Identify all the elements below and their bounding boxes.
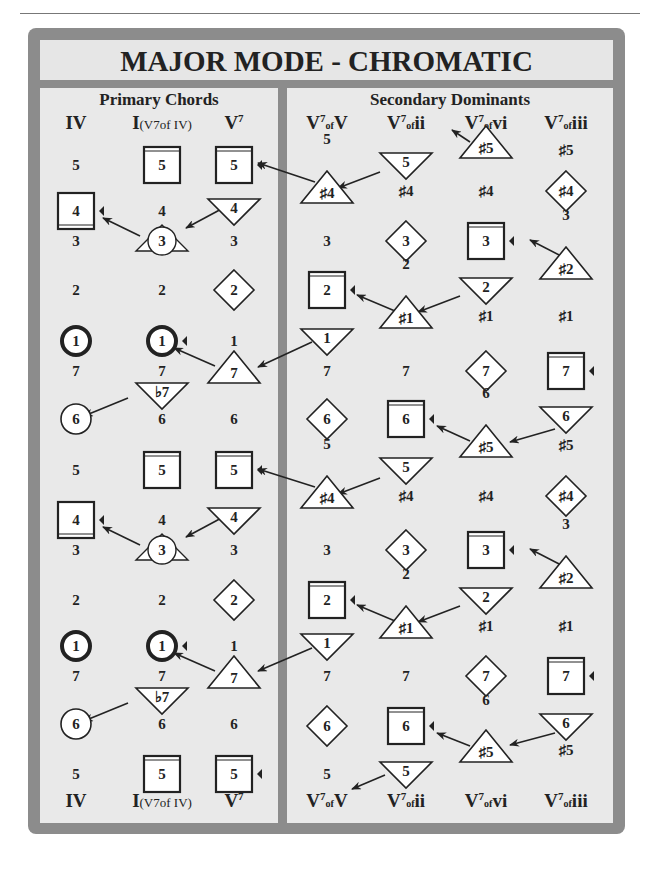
note-text: 2 [402,256,410,272]
note-square-top: 5 [216,147,262,183]
scale-degree-label: 2 [72,282,80,298]
note-circle: 6 [61,404,91,434]
note-tri-down: ♭7 [136,383,188,409]
voice-leading-arrow [258,163,315,182]
scale-degree-label: 7 [323,668,331,684]
scale-degree-label: 5 [323,436,331,452]
note-text: 7 [158,668,166,684]
note-square-top: 7 [548,353,594,389]
note-diamond: 3 [386,221,426,261]
note-text: 5 [72,462,80,478]
note-tri-down: 2 [460,278,512,304]
note-text: 7 [323,363,331,379]
note-text: ♯4 [399,488,415,504]
voice-leading-arrow [452,130,470,142]
scale-degree-label: 2 [230,282,238,298]
note-tri-down: ♭7 [136,688,188,714]
note-square-bottom: 4 [58,502,104,538]
scale-degree-label: 5 [72,462,80,478]
scale-degree-label: 4 [72,512,80,528]
scale-degree-label: ♭7 [155,384,170,400]
voice-leading-arrow [258,648,312,671]
scale-degree-label: 2 [482,589,490,605]
scale-degree-label: 7 [230,670,238,686]
note-text: ♯4 [479,488,495,504]
note-text: ♯5 [559,437,574,453]
voice-leading-arrow [103,218,140,236]
voice-leading-arrow [174,348,215,366]
voice-leading-arrow [437,426,470,441]
scale-degree-label: 3 [158,233,166,249]
scale-degree-label: 5 [402,154,410,170]
scale-degree-label: 1 [323,330,331,346]
scale-degree-label: 5 [158,766,166,782]
note-text: 6 [230,411,238,427]
scale-degree-label: ♯5 [559,142,574,158]
note-text: 5 [323,766,331,782]
scale-degree-label: ♯5 [559,742,574,758]
note-circle-tri: 3 [136,534,188,564]
note-square-bottom: 4 [58,193,104,229]
voice-leading-arrow [418,296,460,312]
note-text: ♯5 [559,742,574,758]
note-text: 7 [72,668,80,684]
scale-degree-label: 6 [323,411,331,427]
scale-degree-label: ♯1 [399,310,414,326]
note-tri-up: 7 [208,656,260,688]
scale-degree-label: 6 [562,408,570,424]
scale-degree-label: 5 [230,766,238,782]
note-text: 7 [323,668,331,684]
note-diamond: 6 [307,399,347,439]
scale-degree-label: 3 [482,233,490,249]
note-text: 3 [562,516,570,532]
note-diamond: 2 [214,580,254,620]
scale-degree-label: 2 [402,256,410,272]
note-text: 2 [158,592,166,608]
scale-degree-label: 6 [72,411,80,427]
scale-degree-label: 7 [482,668,490,684]
note-text: 2 [72,282,80,298]
note-square-top: 5 [144,756,180,792]
scale-degree-label: 1 [158,333,166,349]
scale-degree-label: ♯4 [320,185,336,201]
scale-degree-label: ♯4 [320,490,336,506]
scale-degree-label: 2 [402,566,410,582]
note-tri-up: ♯5 [460,425,512,457]
note-text: 3 [323,233,331,249]
note-square-top: 5 [144,147,180,183]
scale-degree-label: 6 [323,718,331,734]
scale-degree-label: 3 [72,542,80,558]
note-text: ♯4 [399,183,415,199]
scale-degree-label: 1 [230,638,238,654]
scale-degree-label: 7 [562,363,570,379]
note-circle-bold: 1 [62,327,90,355]
scale-degree-label: ♯1 [559,308,574,324]
voice-leading-diagram: 5555♯45♯4♯5♯4♯5♯44443333333♯222222♯12♯1♯… [0,0,651,870]
note-square-top: 2 [309,582,355,618]
note-text: 7 [402,363,410,379]
note-text: 6 [230,716,238,732]
scale-degree-label: ♯5 [479,439,494,455]
scale-degree-label: 3 [562,207,570,223]
scale-degree-label: 6 [230,411,238,427]
note-circle-bold: 1 [62,632,90,660]
scale-degree-label: 2 [72,592,80,608]
note-text: 3 [72,542,80,558]
scale-degree-label: 1 [72,333,80,349]
note-tri-up: ♯5 [460,126,512,158]
note-square-top: 2 [309,272,355,308]
scale-degree-label: 4 [158,512,166,528]
note-diamond: 2 [214,270,254,310]
note-square-top: 3 [468,532,514,568]
note-square-top: 6 [388,401,434,437]
scale-degree-label: ♯2 [559,570,574,586]
voice-leading-arrow [510,429,555,442]
note-tri-up: ♯5 [460,730,512,762]
voice-leading-arrow [418,606,460,622]
note-text: ♯1 [479,618,494,634]
note-diamond: 6 [307,706,347,746]
note-diamond: ♯4 [546,171,586,211]
scale-degree-label: 5 [72,766,80,782]
scale-degree-label: 3 [323,542,331,558]
note-circle-tri: 3 [136,225,188,255]
